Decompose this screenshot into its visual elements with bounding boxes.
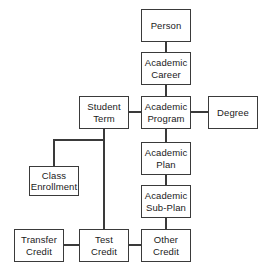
node-label-transfer-credit-line2: Credit [26,246,52,258]
node-degree[interactable]: Degree [208,96,258,129]
node-label-other-credit-line1: Other [154,234,178,246]
node-label-student-term-line1: Student [87,101,120,113]
node-label-class-enrollment-line2: Enrollment [31,181,77,193]
node-label-academic-sub-plan-line2: Sub-Plan [146,202,186,214]
node-person[interactable]: Person [141,9,191,42]
node-academic-program[interactable]: AcademicProgram [141,96,191,129]
node-label-academic-sub-plan-line1: Academic [145,190,188,202]
node-label-academic-plan-line2: Plan [156,159,175,171]
node-label-class-enrollment-line1: Class [42,170,66,182]
node-label-academic-career-line1: Academic [145,57,188,69]
node-label-other-credit-line2: Credit [153,246,179,258]
entity-relationship-diagram: PersonAcademicCareerStudentTermAcademicP… [0,0,269,273]
connector-student-term-to-class-enrollment [54,129,104,166]
node-test-credit[interactable]: TestCredit [79,229,129,262]
node-other-credit[interactable]: OtherCredit [141,229,191,262]
node-label-academic-plan-line1: Academic [145,147,188,159]
node-label-transfer-credit-line1: Transfer [21,234,57,246]
node-transfer-credit[interactable]: TransferCredit [14,229,64,262]
node-academic-sub-plan[interactable]: AcademicSub-Plan [141,185,191,218]
node-label-person-line1: Person [151,20,182,32]
node-academic-career[interactable]: AcademicCareer [141,52,191,85]
node-label-academic-program-line2: Program [147,113,184,125]
node-label-degree-line1: Degree [217,107,249,119]
node-label-student-term-line2: Term [93,113,115,125]
node-academic-plan[interactable]: AcademicPlan [141,142,191,175]
node-label-test-credit-line1: Test [95,234,113,246]
node-label-test-credit-line2: Credit [91,246,117,258]
node-label-academic-program-line1: Academic [145,101,188,113]
node-student-term[interactable]: StudentTerm [79,96,129,129]
node-label-academic-career-line2: Career [151,69,181,81]
node-class-enrollment[interactable]: ClassEnrollment [29,166,79,196]
